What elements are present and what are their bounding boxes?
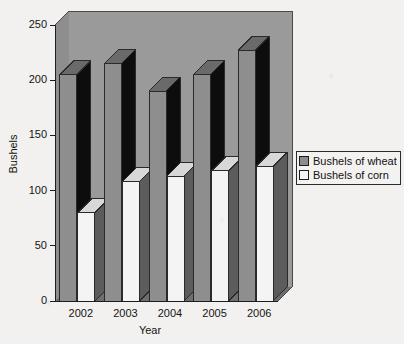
x-tick-label: 2002 bbox=[57, 308, 105, 319]
x-tick-label: 2006 bbox=[235, 308, 283, 319]
y-tick-label: 250 bbox=[1, 19, 47, 30]
y-tick-label: 0 bbox=[1, 295, 47, 306]
legend-item-wheat: Bushels of wheat bbox=[299, 154, 397, 168]
bar-wheat-2004-front bbox=[149, 91, 166, 301]
bar-corn-2005-front bbox=[212, 171, 229, 301]
bar-corn-2006-front bbox=[256, 166, 273, 301]
y-tick-label: 200 bbox=[1, 74, 47, 85]
legend-label-wheat: Bushels of wheat bbox=[313, 156, 397, 167]
bar-wheat-2002-front bbox=[60, 75, 77, 301]
x-tick-label: 2005 bbox=[191, 308, 239, 319]
legend-label-corn: Bushels of corn bbox=[313, 170, 389, 181]
y-tick-label: 150 bbox=[1, 129, 47, 140]
bar-wheat-2005-front bbox=[194, 75, 211, 301]
legend-item-corn: Bushels of corn bbox=[299, 168, 397, 182]
chart-legend: Bushels of wheat Bushels of corn bbox=[296, 151, 401, 185]
bar-wheat-2006-front bbox=[238, 50, 255, 301]
legend-swatch-wheat bbox=[299, 156, 309, 166]
bar-corn-2004-front bbox=[167, 176, 184, 301]
bar-corn-2006-side bbox=[273, 152, 287, 301]
y-tick-label: 50 bbox=[1, 240, 47, 251]
x-tick-label: 2004 bbox=[146, 308, 194, 319]
legend-swatch-corn bbox=[299, 170, 309, 180]
y-tick-label: 100 bbox=[1, 185, 47, 196]
x-axis-title: Year bbox=[0, 324, 300, 336]
x-tick-label: 2003 bbox=[101, 308, 149, 319]
bar-chart: Bushels Year Bushels of wheat Bushels of… bbox=[0, 0, 404, 344]
bar-wheat-2003-front bbox=[104, 64, 121, 301]
bar-corn-2002-front bbox=[78, 213, 95, 301]
bar-corn-2003-front bbox=[122, 182, 139, 301]
